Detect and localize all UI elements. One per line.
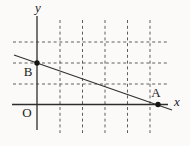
- point-b-label: B: [24, 65, 33, 78]
- point-a-dot: [155, 102, 160, 107]
- y-axis-label: y: [35, 1, 41, 14]
- x-axis-label: x: [174, 95, 180, 108]
- dashed-grid-vertical-lines: [60, 20, 150, 133]
- point-a-label: A: [151, 86, 160, 99]
- coordinate-diagram: y x O B A: [0, 0, 190, 146]
- point-b-dot: [34, 60, 39, 65]
- origin-label: O: [22, 106, 31, 119]
